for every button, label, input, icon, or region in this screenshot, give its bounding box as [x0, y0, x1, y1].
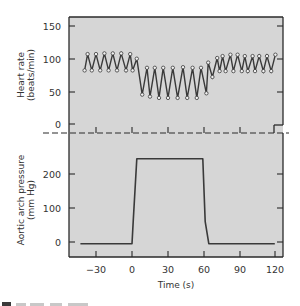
x-axis-title: Time (s)	[157, 280, 195, 290]
heart-rate-point	[166, 96, 169, 99]
heart-rate-point	[90, 69, 93, 72]
xtick-60: 60	[198, 264, 210, 275]
heart-rate-point	[153, 66, 156, 69]
heart-rate-point	[94, 52, 97, 55]
heart-rate-point	[218, 69, 221, 72]
heart-rate-point	[251, 54, 254, 57]
heart-rate-point	[207, 61, 210, 64]
heart-rate-point	[99, 69, 102, 72]
heart-rate-point	[224, 69, 227, 72]
top-ytick-50: 50	[49, 87, 61, 98]
heart-rate-point	[120, 52, 123, 55]
heart-rate-point	[246, 69, 249, 72]
top-ytick-0: 0	[55, 119, 61, 130]
heart-rate-point	[135, 57, 138, 60]
xtick-0: 0	[129, 264, 135, 275]
xtick-120: 120	[266, 264, 284, 275]
xtick-90: 90	[234, 264, 246, 275]
heart-rate-point	[205, 92, 208, 95]
heart-rate-point	[103, 52, 106, 55]
heart-rate-point	[86, 52, 89, 55]
xtick--30: −30	[86, 264, 106, 275]
heart-rate-point	[107, 69, 110, 72]
top-panel-bg	[69, 17, 283, 133]
heart-rate-point	[115, 69, 118, 72]
caption-marker-square	[2, 302, 11, 306]
heart-rate-point	[243, 54, 246, 57]
heart-rate-point	[270, 69, 273, 72]
heart-rate-point	[262, 69, 265, 72]
bottom-ylabel-line2: (mm Hg)	[26, 180, 36, 220]
bottom-panel-bg	[69, 133, 283, 257]
heart-rate-point	[186, 96, 189, 99]
heart-rate-point	[124, 69, 127, 72]
heart-rate-point	[191, 66, 194, 69]
heart-rate-point	[253, 69, 256, 72]
heart-rate-point	[145, 66, 148, 69]
xtick-30: 30	[162, 264, 174, 275]
heart-rate-point	[265, 54, 268, 57]
bottom-ylabel: Aortic arch pressure (mm Hg)	[16, 154, 36, 245]
heart-rate-point	[148, 95, 151, 98]
heart-rate-point	[141, 93, 144, 96]
top-ylabel-line2: (beats/min)	[26, 49, 36, 101]
heart-rate-point	[240, 69, 243, 72]
heart-rate-point	[83, 69, 86, 72]
heart-rate-point	[199, 66, 202, 69]
heart-rate-point	[162, 66, 165, 69]
bottom-ytick-100: 100	[43, 203, 61, 214]
bottom-ytick-0: 0	[55, 237, 61, 248]
heart-rate-point	[171, 66, 174, 69]
heart-rate-point	[195, 96, 198, 99]
bottom-ytick-200: 200	[43, 169, 61, 180]
heart-rate-point	[274, 53, 277, 56]
top-ytick-100: 100	[43, 54, 61, 65]
heart-rate-point	[157, 96, 160, 99]
heart-rate-point	[258, 54, 261, 57]
heart-rate-point	[131, 69, 134, 72]
heart-rate-point	[129, 52, 132, 55]
heart-rate-point	[111, 52, 114, 55]
heart-rate-point	[176, 96, 179, 99]
top-ylabel-line1: Heart rate	[16, 51, 26, 98]
heart-rate-point	[216, 56, 219, 59]
heart-rate-point	[229, 53, 232, 56]
heart-rate-point	[232, 69, 235, 72]
heart-rate-point	[181, 66, 184, 69]
heart-rate-point	[221, 54, 224, 57]
heart-rate-point	[236, 53, 239, 56]
top-ytick-150: 150	[43, 21, 61, 32]
bottom-ylabel-line1: Aortic arch pressure	[16, 154, 26, 245]
top-ylabel: Heart rate (beats/min)	[16, 49, 36, 101]
figure: 150 100 50 0 Heart rate (beats/min) 200 …	[0, 0, 300, 306]
heart-rate-point	[211, 75, 214, 78]
